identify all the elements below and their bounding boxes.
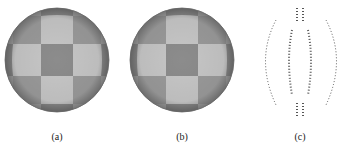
panel-b-sphere xyxy=(122,0,242,120)
caption-b: (b) xyxy=(162,131,202,142)
caption-c: (c) xyxy=(280,131,320,142)
caption-a: (a) xyxy=(37,131,77,142)
panel-c-dotted-outline xyxy=(266,8,337,117)
panel-a-sphere xyxy=(0,0,117,120)
